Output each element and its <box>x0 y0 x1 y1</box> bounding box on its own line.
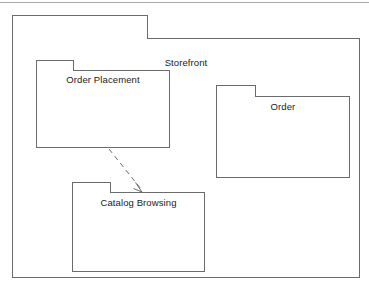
page-top-divider <box>0 2 369 3</box>
package-label-order-placement: Order Placement <box>36 74 170 85</box>
diagram-canvas: Storefront Order Placement Order Catalog… <box>0 0 369 291</box>
package-tab-storefront <box>12 15 148 39</box>
package-label-order: Order <box>216 101 350 112</box>
package-catalog-browsing[interactable]: Catalog Browsing <box>72 182 205 272</box>
package-order[interactable]: Order <box>216 85 350 178</box>
package-order-placement[interactable]: Order Placement <box>36 60 170 148</box>
package-label-storefront: Storefront <box>12 57 360 68</box>
package-label-catalog-browsing: Catalog Browsing <box>72 197 205 208</box>
package-tab-order <box>216 85 256 97</box>
package-tab-catalog-browsing <box>72 182 111 193</box>
